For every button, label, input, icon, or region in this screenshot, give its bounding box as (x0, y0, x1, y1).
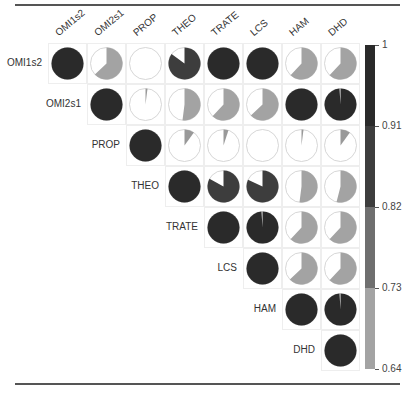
matrix-cell (165, 125, 204, 166)
matrix-cell (243, 207, 282, 248)
colorbar-label: 0.64 (382, 363, 401, 374)
matrix-cell (282, 248, 321, 289)
colorbar-tick (375, 126, 379, 127)
colorbar-band (365, 45, 375, 126)
matrix-cell (165, 84, 204, 125)
matrix-cell (243, 248, 282, 289)
matrix-cell (165, 43, 204, 84)
row-label: LCS (167, 262, 237, 273)
column-label: OMI2s1 (92, 7, 126, 38)
matrix-cell (321, 248, 360, 289)
column-label: HAM (287, 15, 311, 38)
colorbar-band (365, 288, 375, 369)
matrix-cell (321, 84, 360, 125)
matrix-cell (204, 84, 243, 125)
column-label: TRATE (209, 9, 241, 38)
correlation-matrix: OMI1s2OMI1s2OMI2s1OMI2s1PROPPROPTHEOTHEO… (0, 0, 414, 396)
colorbar-tick (375, 369, 379, 370)
colorbar-label: 0.91 (382, 120, 401, 131)
matrix-cell (204, 207, 243, 248)
matrix-cell (126, 125, 165, 166)
matrix-cell (204, 43, 243, 84)
matrix-cell (165, 166, 204, 207)
colorbar-tick (375, 45, 379, 46)
column-label: OMI1s2 (53, 7, 87, 38)
colorbar-tick (375, 288, 379, 289)
matrix-cell (321, 330, 360, 371)
matrix-cell (87, 43, 126, 84)
column-label: THEO (170, 12, 198, 38)
matrix-cell (282, 125, 321, 166)
colorbar-band (365, 207, 375, 288)
matrix-cell (126, 84, 165, 125)
row-label: TRATE (128, 221, 198, 232)
matrix-cell (48, 43, 87, 84)
row-label: PROP (50, 139, 120, 150)
matrix-cell (204, 125, 243, 166)
row-label: HAM (206, 303, 276, 314)
matrix-cell (282, 289, 321, 330)
matrix-cell (87, 84, 126, 125)
matrix-cell (282, 207, 321, 248)
matrix-cell (243, 84, 282, 125)
matrix-cell (126, 43, 165, 84)
matrix-cell (204, 166, 243, 207)
matrix-cell (321, 125, 360, 166)
matrix-cell (243, 43, 282, 84)
row-label: THEO (89, 180, 159, 191)
row-label: DHD (245, 344, 315, 355)
column-label: PROP (131, 11, 160, 38)
matrix-cell (321, 43, 360, 84)
column-label: DHD (326, 16, 350, 38)
matrix-cell (321, 166, 360, 207)
colorbar-label: 1 (382, 39, 388, 50)
column-label: LCS (248, 17, 270, 38)
matrix-cell (243, 125, 282, 166)
matrix-cell (243, 166, 282, 207)
colorbar-tick (375, 207, 379, 208)
matrix-cell (282, 166, 321, 207)
row-label: OMI1s2 (0, 57, 42, 68)
matrix-cell (321, 289, 360, 330)
colorbar-band (365, 126, 375, 207)
matrix-cell (282, 43, 321, 84)
row-label: OMI2s1 (11, 98, 81, 109)
matrix-cell (321, 207, 360, 248)
matrix-cell (282, 84, 321, 125)
colorbar-label: 0.73 (382, 282, 401, 293)
colorbar-label: 0.82 (382, 201, 401, 212)
